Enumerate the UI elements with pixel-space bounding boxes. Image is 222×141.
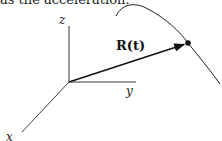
z-axis-label: z xyxy=(58,13,66,27)
x-axis-label: x xyxy=(6,130,13,141)
x-axis xyxy=(22,82,69,132)
position-vector-diagram: z y x R(t) xyxy=(0,0,222,141)
y-axis-label: y xyxy=(125,84,133,98)
curve-point xyxy=(185,40,191,46)
vector-label: R(t) xyxy=(116,38,145,53)
